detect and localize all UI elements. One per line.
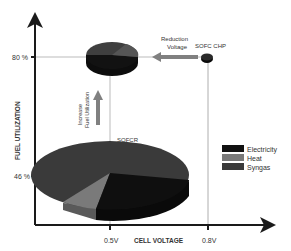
big-pie [31,141,189,221]
x-tick-05v: 0.5V [104,237,119,244]
sofc-chp-label: SOFC CHP [195,43,226,49]
legend-swatch-electricity [222,145,244,152]
x-axis-label: CELL VOLTAGE [134,237,184,244]
reduction-label-1: Reduction [161,36,188,42]
legend: Electricity Heat Syngas [222,145,277,172]
legend-swatch-syngas [222,163,244,170]
small-pie [86,42,138,76]
legend-label-heat: Heat [247,155,262,162]
increase-label-1: Increase [77,104,83,125]
legend-label-syngas: Syngas [247,164,271,172]
y-tick-46: 46 % [14,173,30,180]
reduction-voltage-arrow [152,52,198,62]
x-tick-08v: 0.8V [202,237,217,244]
sofc-chp-marker [201,54,213,64]
y-axis-label: FUEL UTILIZATION [14,101,21,160]
fuel-utilization-diagram: 80 % 46 % 0.5V 0.8V CELL VOLTAGE FUEL UT… [0,0,291,251]
reduction-label-2: Voltage [167,44,188,50]
legend-label-electricity: Electricity [247,146,277,154]
legend-swatch-heat [222,154,244,161]
y-tick-80: 80 % [12,54,28,61]
increase-fuel-arrow [93,90,103,125]
increase-label-2: Fuel Utilization [84,92,90,128]
